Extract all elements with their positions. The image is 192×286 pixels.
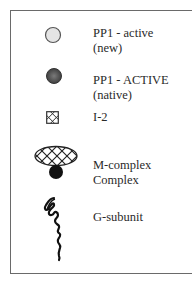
crosshatch-ellipse-with-dot-icon [32, 145, 82, 185]
squiggle-chain-icon [42, 196, 72, 262]
legend-label-m-complex: M-complex Complex [93, 158, 151, 188]
circle-light-icon [44, 26, 62, 44]
legend-label-i2: I-2 [93, 110, 108, 125]
legend-label-g-subunit: G-subunit [93, 210, 143, 225]
legend-label-pp1-native: PP1 - ACTIVE (native) [93, 73, 169, 103]
legend-label-pp1-new: PP1 - active (new) [93, 26, 153, 56]
circle-dark-icon [45, 67, 63, 85]
crosshatch-square-icon [46, 111, 59, 124]
